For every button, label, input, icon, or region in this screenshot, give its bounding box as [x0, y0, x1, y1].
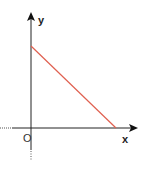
data-line [31, 46, 116, 128]
x-axis-label: x [122, 133, 129, 145]
y-axis-label: y [38, 14, 45, 26]
origin-label: O [23, 132, 32, 144]
chart-canvas: y O x [0, 0, 144, 171]
